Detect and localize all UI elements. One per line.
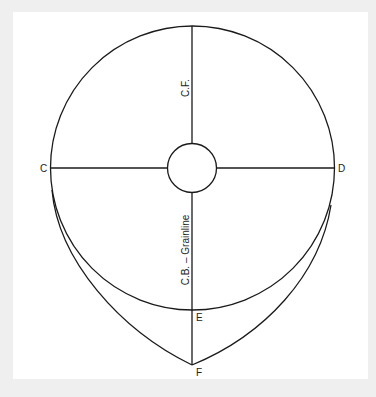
inner-circle [168, 144, 217, 193]
label-point-f: F [196, 367, 202, 378]
label-point-c: C [40, 163, 47, 174]
right-extension-curve [192, 205, 331, 365]
label-point-e: E [196, 312, 203, 323]
pattern-diagram: C D E F C.F. C.B. – Grainline [0, 0, 376, 397]
label-center-back-grainline: C.B. – Grainline [180, 214, 191, 285]
label-center-front: C.F. [180, 79, 191, 97]
left-extension-curve [52, 190, 192, 365]
label-point-d: D [338, 163, 345, 174]
